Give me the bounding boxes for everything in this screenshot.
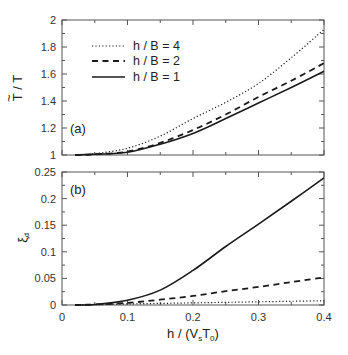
panel-a: 11.21.41.61.82 (a) T / T ~ h / B = 4 h /… (1, 14, 324, 161)
panel-a-ytick-labels: 11.21.41.61.82 (41, 14, 56, 161)
panel-b-ylabel: ξd (15, 233, 30, 243)
panel-a-curves (75, 29, 324, 155)
panel-b-curves (75, 178, 324, 305)
x-tick-label: 0.2 (185, 311, 200, 323)
legend-label: h / B = 4 (133, 39, 180, 53)
y-tick-label: 0.05 (35, 272, 56, 284)
y-tick-label: 2 (50, 14, 56, 26)
panel-b-label: (b) (70, 182, 86, 197)
x-tick-label: 0 (59, 311, 65, 323)
y-tick-label: 0 (50, 299, 56, 311)
y-tick-label: 1.4 (41, 95, 56, 107)
y-tick-label: 1 (50, 149, 56, 161)
svg-text:ξd: ξd (15, 233, 30, 243)
panel-a-label: (a) (70, 121, 86, 136)
panel-b-ticks (62, 172, 324, 305)
panel-b-ytick-labels: 00.050.10.150.20.25 (35, 166, 56, 311)
curve-solid (75, 178, 324, 305)
y-tick-label: 0.15 (35, 219, 56, 231)
x-tick-label: 0.1 (120, 311, 135, 323)
legend-item-hb4: h / B = 4 (92, 39, 180, 53)
y-tick-label: 0.2 (41, 193, 56, 205)
legend-item-hb2: h / B = 2 (92, 54, 180, 68)
legend: h / B = 4 h / B = 2 h / B = 1 (92, 39, 180, 84)
x-axis-label: h / (VsT0) (167, 326, 219, 343)
panel-a-frame (62, 20, 324, 155)
y-tick-label: 0.25 (35, 166, 56, 178)
curve-dotted (75, 29, 324, 155)
x-tick-label: 0.3 (251, 311, 266, 323)
panel-a-ylabel: T / T ~ (1, 75, 25, 102)
panel-b-xtick-labels: 00.10.20.30.4 (59, 311, 332, 323)
x-tick-label: 0.4 (316, 311, 331, 323)
y-tick-label: 0.1 (41, 246, 56, 258)
legend-item-hb1: h / B = 1 (92, 70, 180, 84)
legend-label: h / B = 2 (133, 54, 180, 68)
y-tick-label: 1.6 (41, 68, 56, 80)
panel-b: 00.050.10.150.20.25 00.10.20.30.4 (b) ξd… (15, 166, 332, 343)
legend-label: h / B = 1 (133, 70, 180, 84)
figure: 11.21.41.61.82 (a) T / T ~ h / B = 4 h /… (0, 0, 348, 355)
y-tick-label: 1.8 (41, 41, 56, 53)
panel-b-frame (62, 172, 324, 305)
y-tick-label: 1.2 (41, 122, 56, 134)
tilde-mark: ~ (1, 94, 16, 102)
panel-a-ticks (62, 20, 324, 155)
